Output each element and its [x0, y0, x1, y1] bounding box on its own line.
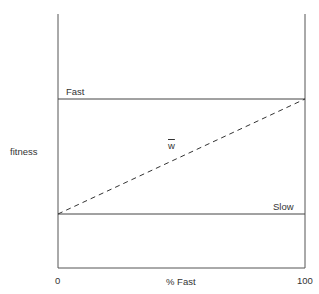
fast-label: Fast — [66, 86, 84, 97]
x-tick-100: 100 — [297, 275, 313, 286]
chart-plot — [0, 0, 319, 294]
y-axis-label: fitness — [10, 146, 37, 157]
x-tick-0: 0 — [55, 275, 60, 286]
mean-fitness-line — [58, 99, 305, 214]
wbar-label: w — [168, 140, 175, 151]
slow-label: Slow — [273, 201, 294, 212]
x-axis-label: % Fast — [166, 276, 196, 287]
